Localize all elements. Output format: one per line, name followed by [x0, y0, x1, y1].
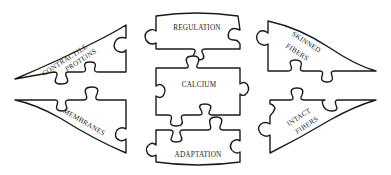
piece-contractile-proteins: CONTRACTILE PROTEINS — [15, 25, 126, 84]
label-calcium: CALCIUM — [182, 81, 217, 89]
puzzle-diagram: REGULATION CALCIUM ADAPTATION CONTRACTIL… — [0, 0, 391, 175]
label-adaptation: ADAPTATION — [175, 151, 223, 159]
piece-intact-fibers: INTACT FIBERS — [259, 88, 377, 153]
piece-adaptation: ADAPTATION — [146, 117, 240, 165]
piece-regulation: REGULATION — [145, 13, 240, 60]
label-regulation: REGULATION — [173, 24, 221, 32]
piece-membranes: MEMBRANES — [15, 87, 126, 153]
piece-calcium: CALCIUM — [156, 56, 249, 126]
piece-skinned-fibers: SKINNED FIBERS — [257, 21, 377, 82]
